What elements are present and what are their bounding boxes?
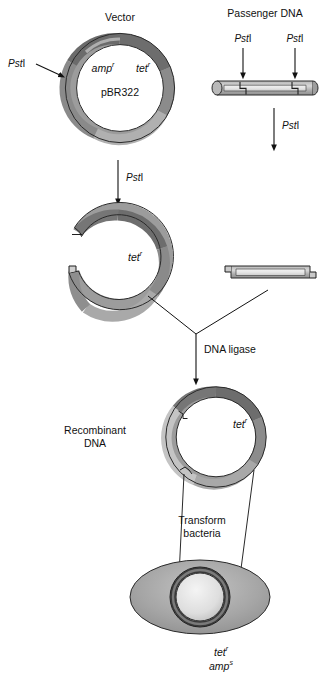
gene-label-tet-cut-vector: tetr (128, 250, 142, 263)
recombinant-dna-label-line1: Recombinant (64, 424, 126, 437)
recombinant-dna-cloning-figure (0, 0, 325, 682)
amp-superscript: r (112, 61, 114, 68)
pstI-passenger-arrows (243, 48, 295, 76)
pstI-label-passenger-left: PstI (234, 33, 251, 45)
result-phenotype-label: tetr amps (209, 645, 233, 672)
pstI-label-digest-vector: PstI (126, 172, 143, 184)
vector-title: Vector (105, 11, 135, 23)
tet-superscript: r (148, 61, 150, 68)
recombinant-dna-label-line2: DNA (64, 437, 126, 450)
pstI-label-vector: PstI (8, 58, 25, 70)
pstI-vector-arrow (36, 64, 62, 76)
passenger-dna (212, 81, 318, 95)
diagram-canvas: Vector Passenger DNA PstI PstI PstI PstI… (0, 0, 325, 682)
dna-ligase-label: DNA ligase (204, 343, 256, 355)
gene-label-tet: tetr (136, 61, 150, 74)
gene-label-tet-recombinant: tetr (233, 417, 247, 430)
result-amp-label: amps (209, 659, 233, 673)
excised-fragment (225, 266, 316, 278)
transform-bacteria-label: Transform bacteria (178, 514, 225, 540)
passenger-dna-title: Passenger DNA (227, 7, 302, 19)
transform-label-line1: Transform (178, 514, 225, 527)
result-tet-label: tetr (209, 645, 233, 659)
pstI-label-digest-passenger: PstI (282, 120, 299, 132)
recombinant-dna-label: Recombinant DNA (64, 424, 126, 450)
transformed-bacterium (130, 560, 270, 634)
pstI-label-passenger-right: PstI (286, 33, 303, 45)
plasmid-name-label: pBR322 (101, 86, 139, 98)
linearized-vector (69, 202, 173, 316)
recombinant-plasmid (166, 387, 266, 487)
pstI-prefix: Pst (8, 58, 22, 69)
gene-label-amp: ampr (92, 61, 115, 74)
ligation-converging-lines (148, 290, 268, 382)
pstI-suffix: I (22, 58, 25, 69)
transform-label-line2: bacteria (178, 527, 225, 540)
